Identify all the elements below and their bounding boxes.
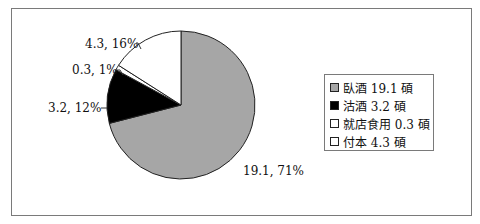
pie-slices <box>107 31 255 179</box>
chart-legend: 臥酒 19.1 碩 沽酒 3.2 碩 就店食用 0.3 碩 付本 4.3 碩 <box>324 74 434 151</box>
legend-swatch-gray <box>330 83 339 92</box>
legend-item-fuben: 付本 4.3 碩 <box>330 132 433 150</box>
legend-swatch-white <box>330 119 339 128</box>
legend-label: 臥酒 19.1 碩 <box>343 79 413 96</box>
legend-swatch-black <box>330 101 339 110</box>
data-label-woju: 19.1, 71% <box>243 164 304 178</box>
legend-label: 付本 4.3 碩 <box>343 133 406 150</box>
legend-item-guju: 沽酒 3.2 碩 <box>330 96 433 114</box>
data-label-guju: 3.2, 12% <box>48 101 101 115</box>
legend-swatch-white <box>330 137 339 146</box>
data-label-jiudian: 0.3, 1% <box>72 63 118 77</box>
legend-label: 就店食用 0.3 碩 <box>343 115 430 132</box>
legend-item-woju: 臥酒 19.1 碩 <box>330 78 433 96</box>
data-label-fuben: 4.3, 16% <box>85 37 138 51</box>
legend-label: 沽酒 3.2 碩 <box>343 97 406 114</box>
legend-item-jiudian: 就店食用 0.3 碩 <box>330 114 433 132</box>
